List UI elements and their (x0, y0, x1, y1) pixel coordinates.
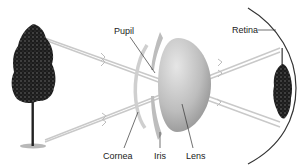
cornea-shape (135, 45, 147, 128)
label-cornea: Cornea (103, 151, 133, 161)
label-pupil: Pupil (114, 26, 134, 36)
label-lens: Lens (186, 151, 206, 161)
label-retina: Retina (232, 25, 258, 35)
eye-diagram: Pupil Retina Cornea Iris Lens (0, 0, 303, 167)
pupil-leader (130, 37, 155, 73)
lens-shape (158, 38, 211, 132)
cornea-leader (124, 112, 138, 148)
tree-icon (12, 24, 56, 149)
label-iris: Iris (154, 151, 166, 161)
inverted-tree-icon (273, 48, 292, 119)
